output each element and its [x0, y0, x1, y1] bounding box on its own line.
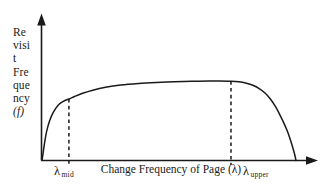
lambda-subscript: upper — [249, 170, 269, 179]
y-axis-label-line: visi — [13, 39, 39, 52]
x-tick-label-lambda-upper: λupper — [243, 164, 269, 179]
y-axis-label-line: (f) — [13, 105, 39, 118]
lambda-subscript: mid — [60, 170, 74, 179]
chart-figure: Re visi t Fre que ncy (f) Change Frequen… — [0, 0, 332, 191]
y-axis-label-line: t — [13, 52, 39, 65]
y-axis-label-line: Fre — [13, 66, 39, 79]
y-axis-arrowhead — [37, 14, 46, 26]
x-axis-title: Change Frequency of Page (λ) — [96, 163, 246, 175]
x-axis-arrowhead — [306, 156, 318, 165]
y-axis-label-line: ncy — [13, 92, 39, 105]
revisit-frequency-curve — [42, 81, 296, 161]
y-axis-label: Re visi t Fre que ncy (f) — [13, 26, 39, 118]
y-axis-label-line: Re — [13, 26, 39, 39]
y-axis-label-line: que — [13, 79, 39, 92]
x-tick-label-lambda-mid: λmid — [54, 164, 74, 179]
